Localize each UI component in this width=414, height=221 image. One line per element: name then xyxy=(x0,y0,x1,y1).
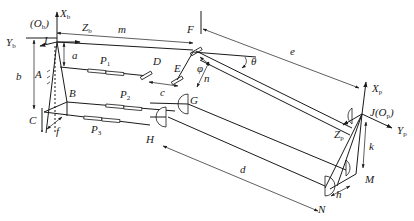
label-dim-d: d xyxy=(240,163,246,175)
label-xp: Xp xyxy=(371,82,383,96)
slider-p2-a xyxy=(106,104,124,109)
rails xyxy=(44,42,193,125)
label-dim-f: f xyxy=(56,125,61,137)
label-h-point: H xyxy=(145,133,155,145)
spherical-joints xyxy=(150,94,352,196)
label-zp: Zp xyxy=(334,128,344,142)
joint-m xyxy=(346,160,350,176)
label-zb: Zb xyxy=(82,21,92,35)
label-dim-k: k xyxy=(369,140,375,152)
dimension-lines xyxy=(34,29,366,211)
label-c-point: C xyxy=(29,114,37,126)
dim-d xyxy=(163,146,318,211)
slider-p3-b xyxy=(102,118,120,123)
label-g-point: G xyxy=(190,94,198,106)
label-b-point: B xyxy=(69,87,76,99)
labels: (Ob) Xb Yb Zb I A B C b a m P1 P2 P3 f D… xyxy=(6,7,407,215)
label-p3: P3 xyxy=(90,123,102,137)
label-dim-n: n xyxy=(204,72,210,84)
label-dim-b: b xyxy=(16,70,22,82)
label-ob: (Ob) xyxy=(30,17,49,31)
xp-axis-arrow xyxy=(362,82,366,114)
slider-p1-b xyxy=(106,71,124,76)
label-f-point: F xyxy=(186,23,194,35)
joint-e xyxy=(171,76,183,85)
angle-theta-arc xyxy=(242,57,246,68)
label-a-point: A xyxy=(34,68,42,80)
slider-p2-b xyxy=(124,106,142,111)
label-d-point: D xyxy=(152,55,161,67)
label-n-point: N xyxy=(317,203,326,215)
label-yb: Yb xyxy=(6,36,16,50)
label-j-op: J(Op) xyxy=(370,106,394,120)
label-e-point: E xyxy=(173,62,181,74)
label-dim-m: m xyxy=(118,23,126,35)
base-frame xyxy=(42,42,67,133)
label-dim-a: a xyxy=(72,49,78,61)
label-xb: Xb xyxy=(59,7,71,21)
dim-k xyxy=(363,122,366,168)
label-yp: Yp xyxy=(397,124,407,138)
dim-e xyxy=(203,29,359,88)
slider-p3-a xyxy=(84,116,102,121)
label-dim-c: c xyxy=(160,86,165,98)
label-phi: φ xyxy=(197,62,203,74)
label-theta: θ xyxy=(251,55,257,67)
label-m-point: M xyxy=(364,173,375,185)
label-dim-e: e xyxy=(290,45,295,57)
label-p2: P2 xyxy=(119,88,131,102)
label-p1: P1 xyxy=(99,54,111,68)
mechanism-diagram: (Ob) Xb Yb Zb I A B C b a m P1 P2 P3 f D… xyxy=(0,0,414,221)
yb-axis-arrow xyxy=(40,42,57,46)
link-f-platform xyxy=(196,51,352,128)
label-dim-h: h xyxy=(336,188,342,200)
slider-p1-a xyxy=(88,69,106,74)
